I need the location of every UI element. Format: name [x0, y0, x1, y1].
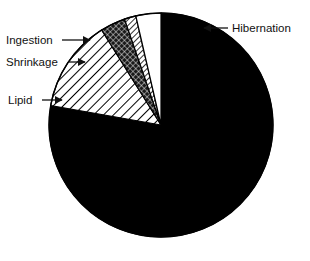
ingestion-label: Ingestion — [6, 34, 53, 46]
pie-chart-svg: Hibernation Ingestion Shrinkage Lipid — [0, 0, 310, 261]
hibernation-label: Hibernation — [232, 22, 291, 34]
callout-ingestion: Ingestion — [6, 34, 90, 46]
pie-chart-figure: Hibernation Ingestion Shrinkage Lipid — [0, 0, 310, 261]
lipid-label: Lipid — [8, 94, 32, 106]
shrinkage-label: Shrinkage — [6, 56, 58, 68]
pie-slices — [49, 13, 273, 237]
